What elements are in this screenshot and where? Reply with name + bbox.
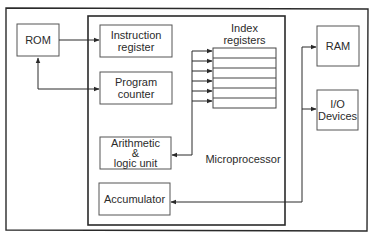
instruction-register-label: Instruction register [100, 25, 172, 57]
index-registers-table [213, 48, 276, 108]
rom-pc-arrow [38, 58, 99, 89]
microprocessor-label: Microprocessor [204, 152, 282, 166]
io-devices-label: I/O Devices [317, 90, 358, 130]
alu-label: Arithmetic & logic unit [100, 137, 171, 169]
outer-border [6, 8, 368, 231]
ram-label: RAM [317, 26, 359, 66]
index-registers-label: Index registers [213, 22, 276, 46]
accumulator-label: Accumulator [99, 183, 170, 215]
index-bus [172, 51, 212, 155]
external-bus [171, 47, 316, 202]
program-counter-label: Program counter [100, 72, 172, 104]
rom-label: ROM [17, 24, 59, 56]
